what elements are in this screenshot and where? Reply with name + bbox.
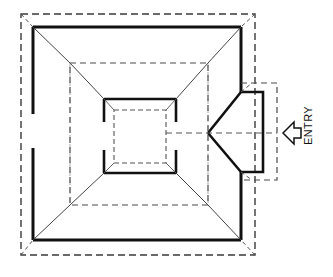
architectural-plan-svg: ENTRY xyxy=(0,0,333,277)
arrow-left-outline-icon xyxy=(283,122,301,144)
center-court-void-dashed xyxy=(114,110,166,163)
plan-diagram-root: ENTRY xyxy=(0,0,333,277)
entry-vestibule-dashed-envelope xyxy=(241,83,277,180)
entry-vestibule-shoulder-links xyxy=(241,83,252,180)
entry-label: ENTRY xyxy=(302,106,314,145)
entry-label-text: ENTRY xyxy=(302,106,314,145)
hip-lines-middle-to-center xyxy=(70,63,208,205)
